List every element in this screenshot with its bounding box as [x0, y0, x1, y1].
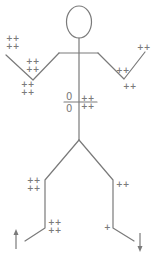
plus-marker-right-elbow-lower: ++: [123, 82, 136, 91]
plus-marker-left-hand-2: ++: [6, 42, 19, 51]
plus-marker-right-ankle: +: [104, 223, 111, 232]
plus-marker-right-knee: ++: [116, 180, 129, 189]
figure-canvas: 0 0 ++ ++ ++ ++ ++ ++ ++ ++ ++ ++ ++ ++ …: [0, 0, 159, 260]
down-arrow-icon: [138, 233, 143, 252]
stick-figure-diagram: 0 0 ++ ++ ++ ++ ++ ++ ++ ++ ++ ++ ++ ++ …: [0, 0, 159, 260]
plus-marker-left-ankle-2: ++: [48, 226, 61, 235]
plus-marker-left-elbow-2: ++: [26, 65, 39, 74]
plus-marker-right-hand: ++: [137, 43, 150, 52]
chest-label-bottom: 0: [66, 103, 72, 114]
plus-marker-left-elbow-lower-2: ++: [21, 88, 34, 97]
up-arrow-icon: [14, 229, 19, 249]
head: [67, 6, 92, 38]
chest-label-top: 0: [66, 91, 72, 102]
plus-marker-left-knee-2: ++: [27, 184, 40, 193]
plus-marker-chest-2: ++: [81, 102, 94, 111]
plus-marker-right-elbow: ++: [116, 66, 129, 75]
